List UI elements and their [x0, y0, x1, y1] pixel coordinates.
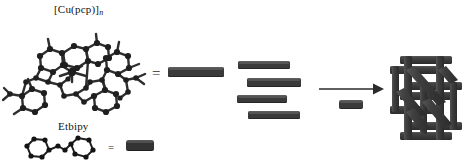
figure-canvas: [Cu(pcp)]n [0, 0, 474, 168]
linker-rod-under-arrow [339, 100, 363, 109]
three-dimensional-coordination-framework [386, 36, 472, 146]
equals-sign-top: = [152, 66, 160, 81]
assembly-arrow [318, 82, 384, 96]
ligand-label: Etbipy [58, 120, 89, 132]
stacked-rod-1 [238, 61, 290, 69]
ligand-rod-legend [126, 140, 154, 151]
complex-label-subscript: n [99, 8, 103, 17]
etbipy-skeletal-structure [18, 132, 102, 166]
complex-label: [Cu(pcp)]n [54, 3, 103, 15]
stacked-rod-3 [237, 95, 287, 103]
complex-label-text: [Cu(pcp)] [54, 3, 99, 15]
equals-sign-bottom: = [108, 142, 114, 153]
cu-pcp-ball-and-stick-structure [2, 22, 148, 118]
stacked-rod-4 [248, 111, 300, 119]
complex-rod-legend [168, 67, 224, 77]
stacked-rod-2 [247, 78, 301, 87]
